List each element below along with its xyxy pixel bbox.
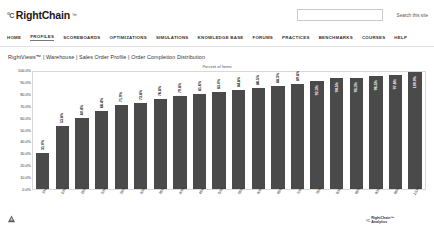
bar[interactable]: 92.3% <box>310 81 323 189</box>
bar[interactable]: 81.6% <box>193 94 206 189</box>
bar[interactable]: 88.3% <box>271 86 284 189</box>
x-axis-tick: 85% <box>354 187 361 195</box>
bar[interactable]: 86.5% <box>252 88 265 189</box>
rightchain-logo-icon: °C <box>7 12 14 19</box>
site-search: Search this site <box>297 9 428 21</box>
nav-item-benchmarks[interactable]: BENCHMARKS <box>319 35 353 41</box>
bar-value-label: 79.8% <box>178 82 182 92</box>
x-tick-slot: 75% <box>307 190 327 208</box>
bar[interactable]: 84.8% <box>232 90 245 189</box>
x-tick-slot: 10% <box>53 190 73 208</box>
x-axis-tick: 95% <box>394 187 401 195</box>
bar-slot: 94.5% <box>327 72 347 189</box>
x-tick-slot: 25% <box>111 190 131 208</box>
bar[interactable]: 100.0% <box>408 72 421 189</box>
x-tick-slot: 35% <box>151 190 171 208</box>
x-tick-slot: 100% <box>405 190 425 208</box>
bar[interactable]: 66.4% <box>95 111 108 189</box>
x-tick-slot: 50% <box>209 190 229 208</box>
bar-value-label: 92.3% <box>315 85 319 95</box>
bar[interactable]: 71.9% <box>115 105 128 189</box>
bar-value-label: 95.3% <box>354 82 358 92</box>
nav-item-scoreboards[interactable]: SCOREBOARDS <box>63 35 100 41</box>
bar-series: 31.0%53.8%60.4%66.4%71.9%73.8%76.8%79.8%… <box>33 72 425 189</box>
nav-item-forums[interactable]: FORUMS <box>253 35 274 41</box>
x-axis-tick: 5% <box>41 188 47 195</box>
breadcrumb: RightViews™ | Warehouse | Sales Order Pr… <box>0 47 434 63</box>
bar-slot: 66.4% <box>92 72 112 189</box>
site-header: °C RightChain ™ Search this site <box>0 0 434 30</box>
bar[interactable]: 94.5% <box>330 78 343 189</box>
bar[interactable]: 96.5% <box>369 76 382 189</box>
footer-logo-text: RightChain™ Analytics <box>371 216 394 224</box>
bar-slot: 31.0% <box>33 72 53 189</box>
nav-item-practices[interactable]: PRACTICES <box>282 35 310 41</box>
bar-slot: 92.3% <box>307 72 327 189</box>
bar[interactable]: 97.8% <box>389 75 402 189</box>
bar-slot: 97.8% <box>386 72 406 189</box>
y-axis-tick: 0.0% <box>22 188 31 192</box>
bar-value-label: 86.5% <box>256 75 260 85</box>
x-axis-ticks: 5%10%15%20%25%30%35%40%45%50%55%60%65%70… <box>33 190 425 208</box>
bar-value-label: 84.8% <box>237 77 241 87</box>
x-tick-slot: 90% <box>366 190 386 208</box>
bar[interactable]: 60.4% <box>75 118 88 189</box>
nav-item-courses[interactable]: COURSES <box>362 35 385 41</box>
bar-value-label: 100.0% <box>413 76 417 88</box>
y-axis-tick: 40.0% <box>20 140 31 144</box>
page-footer: °C RightChain™ Analytics <box>0 212 434 234</box>
bar-value-label: 94.5% <box>335 82 339 92</box>
y-axis-ticks: 100.0%90.0%80.0%70.0%60.0%50.0%40.0%30.0… <box>14 71 32 190</box>
bar[interactable]: 89.8% <box>291 84 304 189</box>
order-completion-distribution-chart: Percent of Items Percent of Orders Compl… <box>6 64 428 212</box>
bar-slot: 60.4% <box>72 72 92 189</box>
bar[interactable]: 83.0% <box>212 92 225 189</box>
chart-title: Percent of Items <box>6 64 428 69</box>
bar[interactable]: 95.3% <box>350 78 363 190</box>
nav-item-knowledge-base[interactable]: KNOWLEDGE BASE <box>198 35 244 41</box>
x-tick-slot: 5% <box>33 190 53 208</box>
y-axis-tick: 10.0% <box>20 176 31 180</box>
nav-item-simulations[interactable]: SIMULATIONS <box>156 35 189 41</box>
bar-value-label: 83.0% <box>217 79 221 89</box>
x-tick-slot: 45% <box>190 190 210 208</box>
search-button[interactable]: Search this site <box>397 13 428 18</box>
bar[interactable]: 73.8% <box>134 103 147 189</box>
x-axis-tick: 35% <box>159 187 166 195</box>
x-tick-slot: 70% <box>288 190 308 208</box>
bar-slot: 96.5% <box>366 72 386 189</box>
bar-slot: 95.3% <box>347 72 367 189</box>
nav-item-home[interactable]: HOME <box>7 35 21 41</box>
y-axis-tick: 50.0% <box>20 129 31 133</box>
x-tick-slot: 15% <box>72 190 92 208</box>
bar-value-label: 73.8% <box>139 89 143 99</box>
bar[interactable]: 31.0% <box>36 153 49 189</box>
nav-item-profiles[interactable]: PROFILES <box>30 34 54 41</box>
bar-slot: 71.9% <box>111 72 131 189</box>
y-axis-tick: 60.0% <box>20 117 31 121</box>
bar[interactable]: 53.8% <box>56 126 69 189</box>
x-tick-slot: 55% <box>229 190 249 208</box>
footer-logo-icon: °C <box>366 218 371 223</box>
bar-slot: 73.8% <box>131 72 151 189</box>
x-tick-slot: 30% <box>131 190 151 208</box>
bar[interactable]: 79.8% <box>173 96 186 189</box>
footer-logo-line2: Analytics <box>371 220 387 224</box>
search-input[interactable] <box>297 9 383 21</box>
bar-value-label: 97.8% <box>393 79 397 89</box>
bar-value-label: 53.8% <box>60 113 64 123</box>
bar-value-label: 60.4% <box>80 105 84 115</box>
bar-slot: 89.8% <box>288 72 308 189</box>
bar-slot: 86.5% <box>249 72 269 189</box>
x-axis-tick: 60% <box>257 187 264 195</box>
nav-item-help[interactable]: HELP <box>394 35 407 41</box>
x-tick-slot: 60% <box>249 190 269 208</box>
bar[interactable]: 76.8% <box>154 99 167 189</box>
y-axis-tick: 70.0% <box>20 105 31 109</box>
mountain-icon[interactable] <box>7 215 16 223</box>
y-axis-tick: 30.0% <box>20 152 31 156</box>
nav-item-optimizations[interactable]: OPTIMIZATIONS <box>110 35 147 41</box>
bar-value-label: 89.8% <box>296 71 300 81</box>
y-axis-tick: 90.0% <box>20 81 31 85</box>
bar-slot: 84.8% <box>229 72 249 189</box>
